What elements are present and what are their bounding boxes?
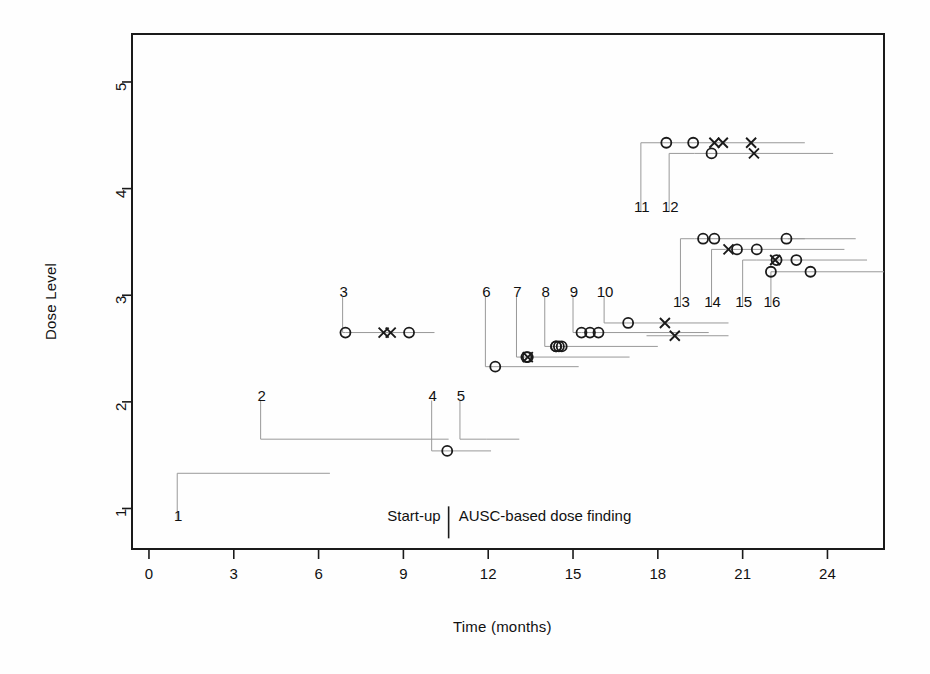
- x-tick-label: 6: [307, 565, 331, 582]
- x-tick-label: 15: [561, 565, 585, 582]
- x-tick-label: 0: [137, 565, 161, 582]
- leader-line: [516, 297, 526, 357]
- y-tick-label: 5: [112, 83, 129, 91]
- figure-canvas: Dose Level Time (months) 036912151821241…: [0, 0, 930, 674]
- y-axis-title: Dose Level: [42, 262, 59, 339]
- y-tick-label: 1: [112, 509, 129, 517]
- y-tick-label: 3: [112, 296, 129, 304]
- patient-id-label: 7: [507, 283, 527, 300]
- x-tick-label: 12: [476, 565, 500, 582]
- patient-track: [669, 148, 833, 211]
- patient-track: [261, 401, 449, 440]
- leader-line: [460, 401, 487, 440]
- patient-track: [545, 297, 658, 351]
- startup-phase-label: Start-up: [349, 507, 441, 524]
- y-tick-label: 4: [112, 189, 129, 197]
- patient-id-label: 15: [734, 293, 754, 310]
- patient-id-label: 14: [703, 293, 723, 310]
- patient-series-layer: [177, 138, 884, 521]
- patient-track: [432, 401, 491, 456]
- patient-id-label: 9: [564, 283, 584, 300]
- leader-line: [545, 297, 555, 346]
- patient-id-label: 10: [595, 283, 615, 300]
- leader-line: [432, 401, 446, 451]
- x-tick-label: 3: [222, 565, 246, 582]
- patient-id-label: 1: [168, 507, 188, 524]
- patient-id-label: 11: [632, 198, 652, 215]
- patient-id-label: 3: [334, 283, 354, 300]
- patient-track: [340, 297, 434, 337]
- x-tick-label: 18: [646, 565, 670, 582]
- leader-line: [485, 297, 493, 367]
- patient-track: [177, 473, 330, 521]
- x-tick-label: 24: [815, 565, 839, 582]
- patient-id-label: 8: [536, 283, 556, 300]
- leader-line: [604, 297, 627, 323]
- patient-id-label: 2: [252, 387, 272, 404]
- patient-track: [460, 401, 519, 440]
- patient-id-label: 4: [423, 387, 443, 404]
- patient-track: [781, 234, 855, 244]
- x-tick-label: 9: [391, 565, 415, 582]
- patient-id-label: 12: [660, 198, 680, 215]
- patient-id-label: 5: [451, 387, 471, 404]
- patient-id-label: 13: [671, 293, 691, 310]
- patient-id-label: 6: [476, 283, 496, 300]
- x-tick-label: 21: [731, 565, 755, 582]
- y-tick-label: 2: [112, 403, 129, 411]
- dose-finding-phase-label: AUSC-based dose finding: [459, 507, 632, 524]
- patient-id-label: 16: [762, 293, 782, 310]
- x-axis-title: Time (months): [453, 618, 552, 635]
- patient-track: [766, 267, 884, 307]
